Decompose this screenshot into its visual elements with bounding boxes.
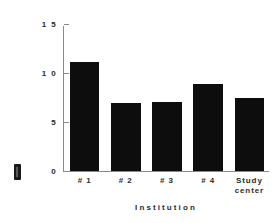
x-axis-tick-label: # 2 — [105, 176, 146, 186]
plot-area: 051 01 5 # 1# 2# 3# 4Study center — [63, 24, 269, 172]
x-axis-tick-label: # 3 — [146, 176, 187, 186]
y-axis-tick-label: 1 5 — [42, 20, 57, 29]
bar — [70, 62, 100, 171]
y-axis-label-clipped-artifact — [14, 164, 21, 180]
y-axis-tick-label: 5 — [51, 118, 57, 127]
bar — [111, 103, 141, 171]
bar — [193, 84, 223, 171]
x-axis-tick-label: Study center — [229, 176, 270, 196]
x-axis-title: Institution — [63, 203, 269, 212]
y-axis-tick-label: 0 — [51, 167, 57, 176]
y-axis-tick-label: 1 0 — [42, 69, 57, 78]
bar — [152, 102, 182, 171]
bar-chart-figure: 051 01 5 # 1# 2# 3# 4Study center Instit… — [0, 0, 278, 223]
x-axis-tick-label: # 4 — [188, 176, 229, 186]
bar-series — [64, 24, 269, 172]
bar — [235, 98, 265, 172]
x-axis-tick-label: # 1 — [64, 176, 105, 186]
